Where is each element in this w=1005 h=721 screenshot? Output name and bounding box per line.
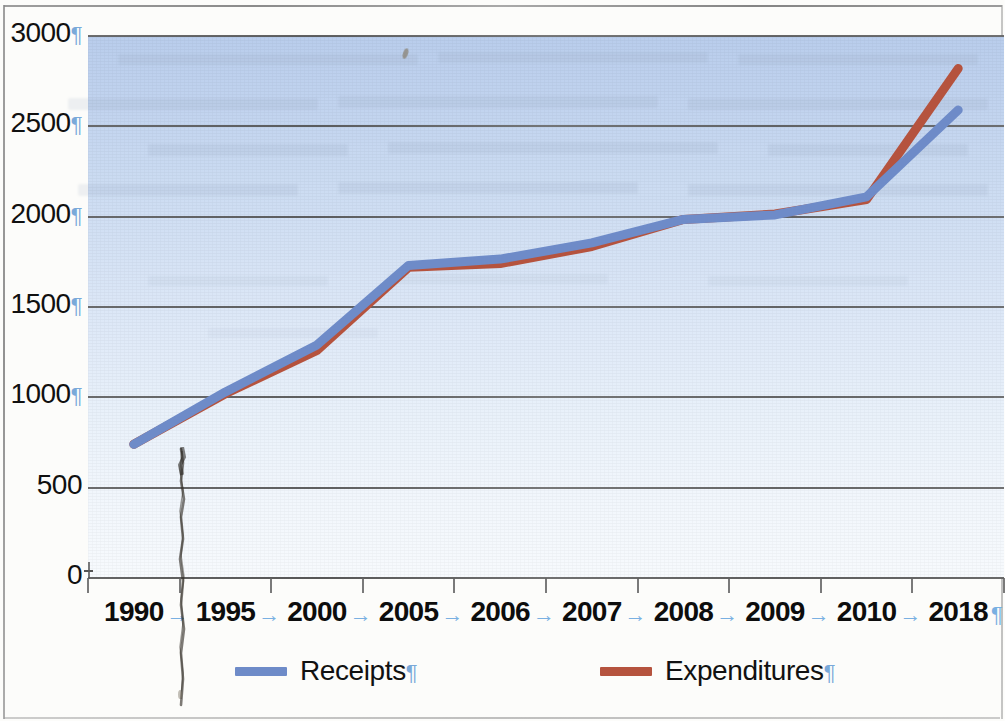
data-series-lines [88,36,1004,578]
x-axis-tick [545,578,547,593]
x-axis-tick [270,578,272,593]
y-axis-tick-label: 2500¶ [4,107,82,139]
y-axis-tick-label: 0 [4,559,82,591]
legend-color-swatch [600,667,652,676]
x-axis-tick [362,578,364,593]
y-axis-tick-label: 500 [4,469,82,501]
chart-legend: Receipts¶Expenditures¶ [0,655,1004,695]
x-axis-labels: 1990→1995→2000→2005→2006→2007→2008→2009→… [88,596,1004,636]
x-axis-tick [637,578,639,593]
legend-item-expenditures[interactable]: Expenditures¶ [600,655,835,687]
series-line-receipts [134,110,958,444]
x-axis-tick [87,578,89,593]
x-axis-tick [820,578,822,593]
legend-label: Receipts¶ [300,655,417,687]
pilcrow-formatting-mark: ¶ [991,602,1003,628]
x-axis-tick [453,578,455,593]
x-axis-tick [911,578,913,593]
legend-label: Expenditures¶ [665,655,835,687]
y-axis-tick-label: 2000¶ [4,198,82,230]
legend-color-swatch [235,667,287,676]
series-line-expenditures [134,69,958,445]
ink-speck-artifact [178,690,182,699]
x-axis-tick [179,578,181,593]
legend-item-receipts[interactable]: Receipts¶ [235,655,417,687]
x-axis-tick [728,578,730,593]
y-axis-tick-label: 1500¶ [4,288,82,320]
y-axis-tick-label: 3000¶ [4,17,82,49]
y-axis-tick-label: 1000¶ [4,378,82,410]
